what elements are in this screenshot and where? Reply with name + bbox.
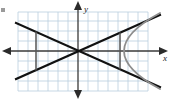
graph-figure: y x <box>0 0 174 100</box>
y-axis-down-arrow <box>74 90 82 99</box>
y-axis-up-arrow <box>74 1 82 10</box>
y-axis-label: y <box>83 4 88 14</box>
hyperbola-lower-arm <box>124 51 160 89</box>
x-axis-left-arrow <box>2 47 11 55</box>
graph-canvas: y x <box>0 0 174 100</box>
axes <box>8 7 162 93</box>
x-axis-label: x <box>162 53 167 63</box>
hyperbola-upper-arm <box>124 13 160 51</box>
